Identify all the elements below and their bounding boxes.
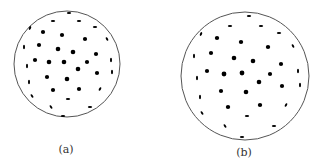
dot bbox=[77, 87, 81, 91]
dot bbox=[193, 54, 195, 58]
dot bbox=[247, 15, 251, 17]
panel-a bbox=[14, 11, 120, 117]
dot bbox=[111, 70, 113, 74]
dot bbox=[215, 36, 219, 40]
dot bbox=[77, 20, 81, 22]
dot bbox=[284, 103, 288, 107]
dot bbox=[51, 88, 55, 92]
dot bbox=[299, 83, 301, 87]
dot bbox=[196, 76, 198, 80]
dot bbox=[37, 43, 41, 47]
dot bbox=[30, 94, 34, 98]
dot bbox=[228, 25, 232, 27]
dot bbox=[49, 105, 53, 109]
dot bbox=[219, 89, 223, 93]
dot bbox=[205, 69, 209, 73]
dot bbox=[62, 60, 67, 65]
dot bbox=[47, 60, 52, 65]
dot bbox=[66, 98, 70, 100]
dot bbox=[209, 51, 213, 55]
dot bbox=[41, 30, 45, 34]
dot bbox=[223, 124, 227, 128]
dot bbox=[277, 32, 281, 34]
panel-label-b: (b) bbox=[236, 146, 252, 159]
dot bbox=[95, 71, 99, 75]
dot bbox=[199, 95, 201, 99]
dot bbox=[259, 25, 263, 27]
dot bbox=[251, 59, 256, 64]
dot bbox=[200, 111, 204, 115]
dot bbox=[279, 62, 283, 66]
dot bbox=[291, 44, 295, 48]
dot bbox=[98, 87, 102, 91]
dot bbox=[268, 72, 272, 76]
dot bbox=[88, 106, 92, 108]
dot bbox=[280, 84, 284, 88]
dot bbox=[83, 37, 87, 41]
dot bbox=[222, 72, 227, 77]
dot bbox=[272, 125, 276, 127]
dot bbox=[244, 90, 249, 95]
dot-pattern-a bbox=[23, 12, 113, 117]
dot bbox=[110, 58, 112, 62]
dot bbox=[245, 115, 249, 117]
dot bbox=[51, 20, 55, 22]
dot bbox=[23, 45, 25, 49]
projection-figure bbox=[0, 0, 325, 167]
dot bbox=[28, 80, 30, 84]
dot bbox=[76, 67, 81, 72]
dot bbox=[257, 80, 262, 85]
dot bbox=[93, 26, 97, 28]
dot bbox=[232, 56, 237, 61]
dot bbox=[199, 32, 203, 36]
dot bbox=[258, 103, 262, 107]
dot bbox=[239, 40, 243, 44]
dot bbox=[266, 45, 270, 49]
dot bbox=[240, 136, 244, 138]
dot bbox=[56, 47, 61, 52]
dot bbox=[105, 37, 109, 41]
dot bbox=[61, 115, 65, 117]
dot bbox=[297, 69, 299, 73]
panel-label-a: (a) bbox=[58, 143, 73, 156]
dot bbox=[226, 105, 230, 109]
dot bbox=[67, 12, 71, 14]
panel-b bbox=[181, 12, 309, 140]
dot bbox=[65, 77, 70, 82]
dot-pattern-b bbox=[193, 15, 301, 138]
dot bbox=[33, 58, 37, 62]
dot bbox=[26, 64, 28, 68]
dot bbox=[45, 75, 49, 79]
dot bbox=[94, 52, 98, 56]
dot bbox=[60, 33, 64, 37]
projection-circle-b bbox=[181, 12, 309, 140]
dot bbox=[71, 50, 76, 55]
dot bbox=[240, 71, 245, 76]
dot bbox=[85, 60, 89, 64]
